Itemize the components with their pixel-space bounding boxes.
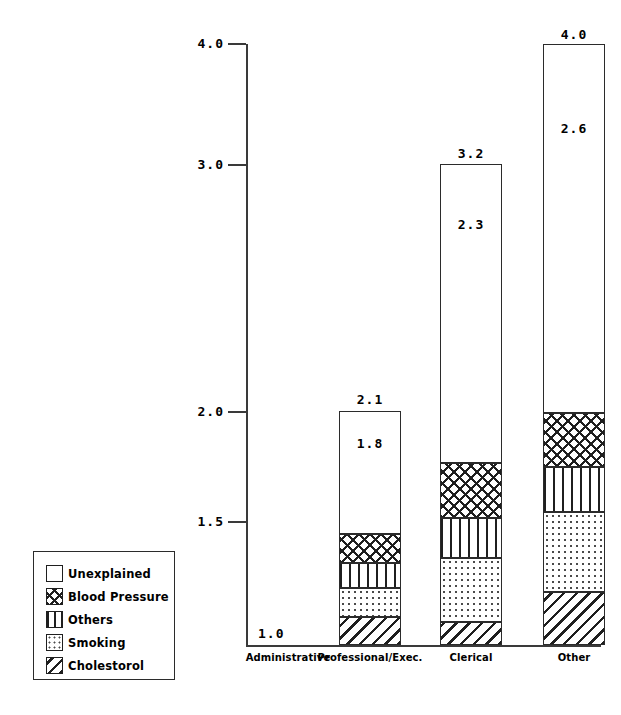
segment-unexplained-other: [543, 44, 605, 413]
legend-item-others: Others: [46, 608, 174, 631]
segment-others-other: [543, 467, 605, 512]
baseline-value-administrative: 1.0: [258, 626, 284, 641]
stacked-bar-chart: 4.0 3.0 2.0 1.5 1.0 2.1 1.8 3.2 2.3 4.0 …: [0, 0, 621, 715]
segment-cholestorol-clerical: [440, 622, 502, 645]
segment-others-clerical: [440, 518, 502, 558]
y-tick-label-3: 1.5: [180, 514, 224, 529]
segment-unexplained-clerical: [440, 164, 502, 463]
legend-item-unexplained: Unexplained: [46, 562, 174, 585]
category-label-clerical: Clerical: [416, 652, 526, 663]
legend: Unexplained Blood Pressure Others Smokin…: [33, 551, 175, 680]
legend-item-cholestorol: Cholestorol: [46, 654, 174, 677]
y-tick-label-1: 3.0: [180, 157, 224, 172]
legend-swatch-cholestorol-icon: [46, 657, 63, 674]
legend-item-blood-pressure: Blood Pressure: [46, 585, 174, 608]
segment-cholestorol-professional: [339, 617, 401, 645]
bar-total-label-clerical: 3.2: [440, 146, 502, 161]
bar-total-label-professional: 2.1: [339, 392, 401, 407]
segment-others-professional: [339, 563, 401, 588]
bar-unexplained-label-professional: 1.8: [339, 436, 401, 451]
y-tick-mark-1: [228, 164, 246, 166]
segment-smoking-professional: [339, 588, 401, 617]
segment-blood-pressure-professional: [339, 534, 401, 563]
legend-label-smoking: Smoking: [68, 636, 126, 650]
y-tick-mark-0: [228, 43, 246, 45]
category-label-professional: Professional/Exec.: [315, 652, 425, 663]
legend-swatch-smoking-icon: [46, 634, 63, 651]
bar-unexplained-label-clerical: 2.3: [440, 217, 502, 232]
legend-label-others: Others: [68, 613, 113, 627]
bar-total-label-other: 4.0: [543, 27, 605, 42]
x-axis-line: [246, 645, 601, 647]
y-tick-label-2: 2.0: [180, 404, 224, 419]
y-tick-label-0: 4.0: [180, 36, 224, 51]
segment-unexplained-professional: [339, 411, 401, 534]
segment-smoking-other: [543, 512, 605, 592]
segment-blood-pressure-clerical: [440, 463, 502, 518]
legend-label-cholestorol: Cholestorol: [68, 659, 144, 673]
legend-swatch-others-icon: [46, 611, 63, 628]
y-tick-mark-2: [228, 411, 246, 413]
y-axis-line: [246, 44, 248, 647]
segment-smoking-clerical: [440, 558, 502, 622]
category-label-other: Other: [519, 652, 621, 663]
y-tick-mark-3: [228, 521, 246, 523]
legend-item-smoking: Smoking: [46, 631, 174, 654]
legend-label-unexplained: Unexplained: [68, 567, 151, 581]
legend-swatch-blood-pressure-icon: [46, 588, 63, 605]
legend-swatch-unexplained-icon: [46, 565, 63, 582]
segment-blood-pressure-other: [543, 413, 605, 467]
legend-label-blood-pressure: Blood Pressure: [68, 590, 169, 604]
segment-cholestorol-other: [543, 592, 605, 645]
bar-unexplained-label-other: 2.6: [543, 121, 605, 136]
